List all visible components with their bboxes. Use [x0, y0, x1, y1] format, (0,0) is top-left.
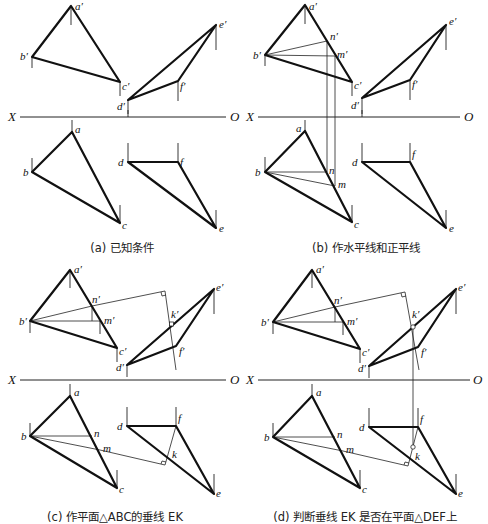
caption-d: (d) 判断垂线 EK 是否在平面△DEF上	[273, 510, 457, 524]
label-f-prime: f′	[412, 78, 418, 90]
label-m: m	[346, 443, 354, 455]
label-d-prime: d′	[117, 100, 126, 112]
label-b-prime: b′	[20, 50, 29, 62]
axis-label-o: O	[473, 372, 483, 387]
label-f-prime: f′	[421, 346, 427, 358]
label-b: b	[21, 430, 27, 442]
label-k: k	[415, 450, 421, 462]
label-d-prime: d′	[351, 99, 360, 111]
panel-c: X O a′ b′ n′ m′ c′ d′ k′ f′ e′ a b n m c…	[7, 263, 240, 524]
label-f: f	[420, 413, 425, 425]
axis-label-x: X	[245, 372, 255, 387]
label-m-prime: m′	[347, 315, 358, 327]
label-f: f	[180, 156, 185, 168]
label-e: e	[219, 222, 224, 234]
label-c-prime: c′	[122, 80, 130, 92]
label-b: b	[23, 166, 29, 178]
caption-b: (b) 作水平线和正平线	[312, 241, 421, 255]
label-m: m	[103, 442, 111, 454]
label-b-prime: b′	[261, 316, 270, 328]
axis-label-o: O	[230, 372, 240, 387]
label-c: c	[122, 219, 127, 231]
label-k-prime: k′	[412, 308, 420, 320]
axis-label-o: O	[464, 109, 474, 124]
label-f-prime: f′	[180, 80, 186, 92]
label-d-prime: d′	[116, 361, 125, 373]
projected-k-marker	[411, 445, 415, 449]
triangle-def-top	[128, 162, 216, 228]
caption-a: (a) 已知条件	[90, 241, 154, 255]
label-n: n	[337, 428, 343, 440]
label-m-prime: m′	[104, 314, 115, 326]
label-e: e	[458, 487, 463, 499]
triangle-abc-front	[273, 270, 360, 349]
label-b-prime: b′	[19, 315, 28, 327]
label-c: c	[362, 483, 367, 495]
label-k-prime: k′	[171, 308, 179, 320]
label-n-prime: n′	[92, 293, 101, 305]
label-a: a	[74, 386, 80, 398]
label-n: n	[94, 427, 100, 439]
panel-a: X O a′ b′ c′ d′ f′ e′ a b c d f e (a) 已知…	[7, 0, 240, 255]
label-b: b	[264, 431, 270, 443]
label-n: n	[329, 164, 335, 176]
triangle-abc-top	[32, 132, 120, 223]
label-a-prime: a′	[74, 263, 83, 275]
triangle-abc-front	[30, 270, 117, 348]
label-c: c	[119, 483, 124, 495]
panel-d: X O a′ b′ n′ m′ c′ d′ k′ f′ e′ a b n m c…	[245, 263, 483, 524]
label-a: a	[296, 122, 302, 134]
label-a: a	[316, 386, 322, 398]
label-n-prime: n′	[334, 294, 343, 306]
point-k-prime-marker	[170, 322, 174, 326]
triangle-def-top	[362, 162, 446, 228]
axis-label-x: X	[7, 109, 17, 124]
triangle-def-front	[362, 25, 446, 98]
label-f-prime: f′	[179, 345, 185, 357]
label-c-prime: c′	[362, 346, 370, 358]
label-c: c	[354, 218, 359, 230]
point-k-prime-marker	[411, 325, 415, 329]
label-m: m	[338, 178, 346, 190]
label-d: d	[352, 156, 358, 168]
projection-figure: X O a′ b′ c′ d′ f′ e′ a b c d f e (a) 已知…	[0, 0, 488, 524]
triangle-abc-top	[265, 131, 352, 222]
label-b-prime: b′	[253, 49, 262, 61]
label-e-prime: e′	[216, 281, 224, 293]
axis-label-x: X	[7, 372, 17, 387]
label-a: a	[75, 123, 81, 135]
perpendicular-top	[343, 427, 418, 466]
label-e-prime: e′	[219, 18, 227, 30]
label-e-prime: e′	[458, 281, 466, 293]
label-d: d	[359, 421, 365, 433]
triangle-def-front	[128, 25, 216, 100]
triangle-def-top	[127, 426, 214, 494]
label-a-prime: a′	[309, 0, 318, 12]
axis-label-o: O	[230, 109, 240, 124]
label-e: e	[216, 487, 221, 499]
label-n-prime: n′	[330, 30, 339, 42]
label-f: f	[178, 412, 183, 424]
axis-label-x: X	[245, 109, 255, 124]
label-k: k	[172, 448, 178, 460]
label-b: b	[255, 166, 261, 178]
label-f: f	[412, 148, 417, 160]
triangle-def-front	[127, 289, 214, 365]
triangle-def-top	[369, 427, 456, 494]
label-a-prime: a′	[316, 263, 325, 275]
triangle-abc-top	[273, 396, 360, 488]
label-d: d	[117, 420, 123, 432]
triangle-abc-front	[32, 6, 120, 82]
triangle-abc-front	[265, 5, 352, 82]
caption-c: (c) 作平面△ABC的垂线 EK	[47, 510, 183, 524]
panel-b: X O a′ b′ n′ m′ c′ d′ f′ e′ a b n m c d …	[245, 0, 474, 255]
label-d-prime: d′	[358, 362, 367, 374]
perpendicular-top	[100, 426, 176, 465]
label-d: d	[118, 156, 124, 168]
label-c-prime: c′	[354, 79, 362, 91]
label-c-prime: c′	[119, 345, 127, 357]
label-e-prime: e′	[449, 15, 457, 27]
label-e: e	[449, 222, 454, 234]
label-m-prime: m′	[337, 48, 348, 60]
label-a-prime: a′	[75, 0, 84, 12]
